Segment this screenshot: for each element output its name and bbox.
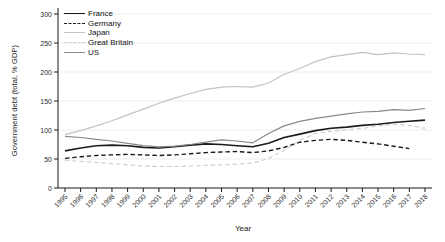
x-axis-title: Year: [58, 224, 428, 233]
x-tick-label-2007: 2007: [241, 193, 257, 209]
legend-swatch-germany: [64, 23, 85, 24]
legend-label: Great Britain: [88, 38, 133, 47]
legend-item-germany: Germany: [64, 19, 133, 29]
series-line-france: [65, 120, 425, 151]
y-axis-title: Government debt (total, % GDP): [10, 36, 19, 166]
series-line-japan: [65, 52, 425, 134]
y-tick-label-50: 50: [44, 156, 52, 163]
x-tick-label-1996: 1996: [68, 193, 84, 209]
x-tick-label-2000: 2000: [131, 193, 147, 209]
y-tick-label-0: 0: [48, 185, 52, 192]
legend-item-japan: Japan: [64, 28, 133, 38]
x-tick-label-2002: 2002: [162, 193, 178, 209]
x-tick-label-1998: 1998: [100, 193, 116, 209]
y-tick-label-100: 100: [40, 127, 52, 134]
x-tick-label-2006: 2006: [225, 193, 241, 209]
legend-swatch-japan: [64, 32, 85, 33]
legend-label: Japan: [88, 28, 110, 37]
x-tick-label-2010: 2010: [288, 193, 304, 209]
y-tick-label-250: 250: [40, 40, 52, 47]
x-tick-label-1995: 1995: [53, 193, 69, 209]
government-debt-chart: 0501001502002503001995199619971998199920…: [0, 0, 445, 242]
x-tick-label-2012: 2012: [319, 193, 335, 209]
series-line-us: [65, 109, 425, 147]
y-tick-label-150: 150: [40, 98, 52, 105]
legend-item-france: France: [64, 9, 133, 19]
x-tick-label-2001: 2001: [147, 193, 163, 209]
x-tick-label-2011: 2011: [304, 193, 320, 209]
x-tick-label-2003: 2003: [178, 193, 194, 209]
y-tick-label-200: 200: [40, 69, 52, 76]
x-tick-label-2005: 2005: [209, 193, 225, 209]
legend-swatch-great-britain: [64, 42, 85, 43]
x-tick-label-1997: 1997: [84, 193, 100, 209]
legend-swatch-us: [64, 52, 85, 53]
x-tick-label-2016: 2016: [381, 193, 397, 209]
x-tick-label-2017: 2017: [397, 193, 413, 209]
x-tick-label-2014: 2014: [350, 193, 366, 209]
legend-label: France: [88, 9, 113, 18]
x-tick-label-2013: 2013: [334, 193, 350, 209]
legend: FranceGermanyJapanGreat BritainUS: [64, 9, 133, 57]
y-tick-label-300: 300: [40, 11, 52, 18]
x-tick-label-2004: 2004: [194, 193, 210, 209]
x-tick-label-1999: 1999: [115, 193, 131, 209]
legend-swatch-france: [64, 13, 85, 14]
legend-item-us: US: [64, 47, 133, 57]
x-tick-label-2015: 2015: [366, 193, 382, 209]
legend-label: US: [88, 48, 99, 57]
x-tick-label-2018: 2018: [413, 193, 429, 209]
x-tick-label-2009: 2009: [272, 193, 288, 209]
legend-label: Germany: [88, 19, 121, 28]
legend-item-great-britain: Great Britain: [64, 38, 133, 48]
x-tick-label-2008: 2008: [256, 193, 272, 209]
